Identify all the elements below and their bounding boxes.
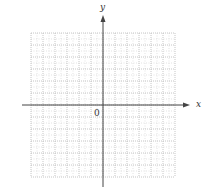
- axes: [22, 15, 190, 187]
- coordinate-plane: [0, 0, 212, 193]
- coordinate-plane-figure: x y 0: [0, 0, 212, 193]
- x-axis-label: x: [196, 100, 201, 109]
- y-axis-label: y: [100, 3, 105, 12]
- y-axis-arrowhead-icon: [101, 15, 106, 22]
- origin-label: 0: [94, 109, 100, 118]
- x-axis-arrowhead-icon: [183, 103, 190, 108]
